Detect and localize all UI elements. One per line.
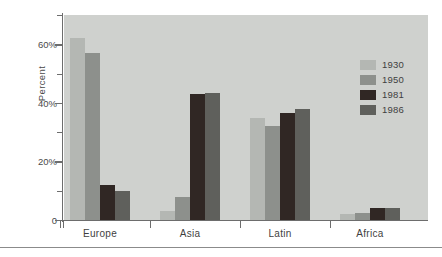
x-tick <box>63 220 64 228</box>
y-tick-minor <box>57 191 63 192</box>
x-axis-line <box>62 220 428 221</box>
y-tick-major <box>55 161 63 162</box>
legend-swatch <box>360 60 376 70</box>
bar <box>280 113 295 220</box>
x-category-label: Africa <box>356 228 383 239</box>
y-tick-label: 20% <box>23 156 57 167</box>
legend-item: 1981 <box>360 87 404 102</box>
y-tick-major <box>55 220 63 221</box>
legend: 1930195019811986 <box>360 57 404 117</box>
legend-label: 1986 <box>382 104 404 115</box>
x-tick <box>240 220 241 228</box>
x-category-label: Latin <box>268 228 291 239</box>
bar <box>70 38 85 220</box>
bar <box>250 118 265 221</box>
bar <box>370 208 385 220</box>
bar <box>115 191 130 220</box>
bar-group <box>70 15 130 220</box>
y-tick-minor <box>57 74 63 75</box>
footer-divider <box>0 247 442 248</box>
legend-swatch <box>360 105 376 115</box>
bar-group <box>250 15 310 220</box>
x-tick <box>330 220 331 228</box>
bar-group <box>340 15 400 220</box>
y-tick-label: 0 <box>23 215 57 226</box>
legend-swatch <box>360 75 376 85</box>
y-tick-minor <box>57 132 63 133</box>
y-axis-tick-labels: 020%40%60% <box>23 0 57 257</box>
bar <box>385 208 400 220</box>
legend-swatch <box>360 90 376 100</box>
bar-chart-figure: Percent 020%40%60% 1930195019811986 Euro… <box>0 0 442 257</box>
y-tick-major <box>55 103 63 104</box>
legend-label: 1950 <box>382 74 404 85</box>
bar-group <box>160 15 220 220</box>
y-tick-label: 60% <box>23 39 57 50</box>
bar <box>190 94 205 220</box>
legend-item: 1986 <box>360 102 404 117</box>
bar <box>265 126 280 220</box>
bar <box>85 53 100 220</box>
legend-label: 1930 <box>382 59 404 70</box>
x-tick <box>150 220 151 228</box>
bar <box>355 213 370 220</box>
y-tick-label: 40% <box>23 97 57 108</box>
y-tick-major <box>55 44 63 45</box>
y-tick-minor <box>57 15 63 16</box>
plot-area <box>64 15 428 220</box>
legend-item: 1930 <box>360 57 404 72</box>
bar <box>160 211 175 220</box>
bar <box>175 197 190 220</box>
bar <box>205 93 220 220</box>
bar <box>295 109 310 220</box>
legend-label: 1981 <box>382 89 404 100</box>
x-tick <box>60 220 61 228</box>
x-category-label: Asia <box>180 228 201 239</box>
legend-item: 1950 <box>360 72 404 87</box>
bar <box>100 185 115 220</box>
x-category-label: Europe <box>83 228 117 239</box>
